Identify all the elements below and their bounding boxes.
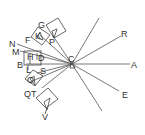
label-b: B	[17, 60, 23, 70]
label-a: A	[131, 60, 137, 70]
label-k: K	[35, 31, 41, 41]
label-s: S	[40, 66, 46, 76]
label-p: P	[49, 37, 55, 47]
square-g-p	[46, 18, 66, 38]
label-f: F	[25, 35, 31, 45]
label-d: D	[38, 53, 45, 63]
ray-o	[30, 64, 72, 82]
label-g: G	[38, 20, 45, 30]
ray-r	[72, 36, 121, 64]
geometry-diagram: C A R E G P F K N M H D B L S O Q T V	[0, 0, 145, 135]
label-q: Q	[24, 89, 31, 99]
ray-n	[17, 44, 72, 64]
label-t: T	[31, 89, 37, 99]
ray-upper	[72, 18, 99, 64]
label-h: H	[27, 52, 34, 62]
ray-e	[72, 64, 119, 91]
labels: C A R E G P F K N M H D B L S O Q T V	[9, 20, 137, 122]
label-v: V	[42, 112, 48, 122]
ray-lower	[72, 64, 102, 111]
label-r: R	[121, 29, 128, 39]
label-c: C	[68, 54, 75, 64]
square-t-v	[36, 88, 58, 108]
label-m: M	[12, 47, 20, 57]
label-o: O	[27, 75, 34, 85]
label-l: L	[26, 65, 31, 75]
label-e: E	[122, 90, 128, 100]
